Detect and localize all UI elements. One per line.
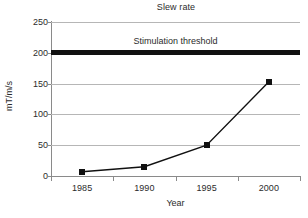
chart-title-text: Slew rate bbox=[157, 2, 195, 12]
x-tick-mark-3 bbox=[238, 176, 239, 181]
x-tick-mark-2 bbox=[176, 176, 177, 181]
x-tick-label-1985: 1985 bbox=[51, 183, 113, 193]
y-axis-ticks: 050100150200250 bbox=[0, 22, 48, 176]
data-point-2000 bbox=[266, 79, 272, 85]
x-tick-label-1990: 1990 bbox=[113, 183, 175, 193]
x-tick-label-2000: 2000 bbox=[238, 183, 300, 193]
chart-title: Slew rate bbox=[0, 2, 308, 12]
x-tick-label-1995: 1995 bbox=[176, 183, 238, 193]
stimulation-threshold-label: Stimulation threshold bbox=[51, 36, 300, 46]
y-tick-label-250: 250 bbox=[8, 17, 48, 27]
series-polyline bbox=[82, 82, 269, 172]
stimulation-threshold-line bbox=[51, 50, 300, 55]
y-tick-label-0: 0 bbox=[8, 171, 48, 181]
y-tick-label-150: 150 bbox=[8, 79, 48, 89]
y-tick-label-100: 100 bbox=[8, 109, 48, 119]
x-tick-mark-4 bbox=[300, 176, 301, 181]
y-tick-label-200: 200 bbox=[8, 48, 48, 58]
x-tick-mark-1 bbox=[113, 176, 114, 181]
data-point-1995 bbox=[204, 142, 210, 148]
data-point-1990 bbox=[141, 164, 147, 170]
x-axis-title: Year bbox=[51, 198, 300, 208]
x-tick-mark-0 bbox=[51, 176, 52, 181]
data-point-1985 bbox=[79, 169, 85, 175]
slew-rate-chart: Slew rate mT/m/s 050100150200250 Stimula… bbox=[0, 0, 308, 218]
y-tick-label-50: 50 bbox=[8, 140, 48, 150]
